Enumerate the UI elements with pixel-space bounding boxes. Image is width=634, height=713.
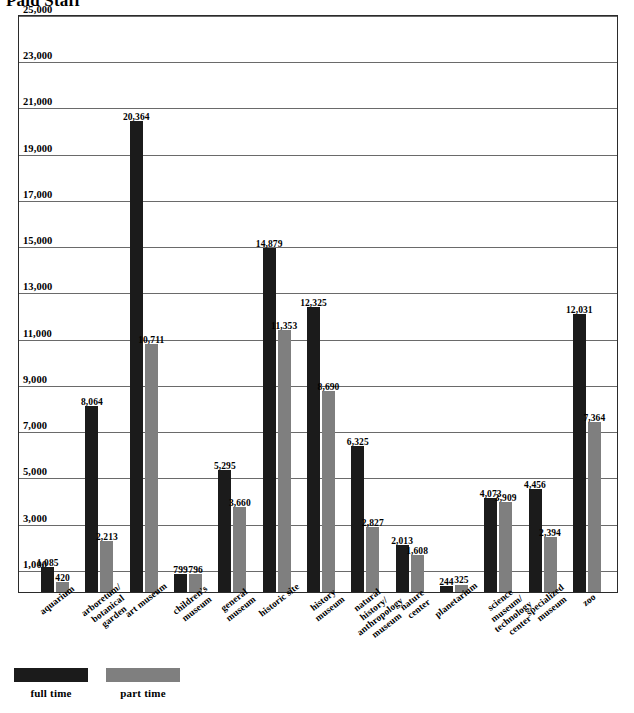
bar-part-time (145, 344, 158, 592)
bar-value-label: 799 (173, 565, 188, 575)
bar-full-time (263, 248, 276, 592)
legend-label: part time (106, 687, 180, 699)
bar-value-label: 244 (439, 577, 454, 587)
bar-full-time (307, 307, 320, 592)
chart-legend: full timepart time (14, 668, 274, 708)
bar-part-time (322, 391, 335, 592)
bars-layer: 1,0854208,0642,21320,36410,7117997965,29… (19, 16, 617, 592)
bar-value-label: 7,364 (583, 413, 605, 423)
bar-value-label: 8,690 (318, 382, 340, 392)
bar-full-time (130, 121, 143, 592)
bar-value-label: 2,213 (96, 532, 118, 542)
bar-full-time (41, 567, 54, 592)
legend-swatch-part (106, 668, 180, 682)
bar-part-time (499, 502, 512, 592)
bar-part-time (278, 330, 291, 592)
legend-item-part[interactable]: part time (106, 668, 180, 699)
bar-value-label: 10,711 (138, 335, 164, 345)
legend-label: full time (14, 687, 88, 699)
bar-value-label: 20,364 (123, 112, 150, 122)
bar-value-label: 3,660 (229, 498, 251, 508)
bar-value-label: 11,353 (271, 321, 297, 331)
bar-value-label: 5,295 (214, 461, 236, 471)
bar-part-time (544, 537, 557, 592)
bar-full-time (85, 406, 98, 592)
bar-value-label: 2,394 (539, 528, 561, 538)
bar-value-label: 796 (188, 565, 203, 575)
bar-full-time (218, 470, 231, 592)
bar-part-time (366, 527, 379, 592)
bar-value-label: 1,608 (406, 546, 428, 556)
bar-value-label: 6,325 (347, 437, 369, 447)
bar-value-label: 12,031 (566, 305, 593, 315)
bar-full-time (529, 489, 542, 592)
x-axis-labels: aquariumarboretum/ botanical gardenart m… (18, 596, 618, 656)
bar-full-time (573, 314, 586, 592)
bar-full-time (174, 574, 187, 592)
plot-area: 1,0003,0005,0007,0009,00011,00013,00015,… (18, 15, 618, 593)
bar-value-label: 1,085 (37, 558, 59, 568)
bar-value-label: 4,456 (524, 480, 546, 490)
bar-value-label: 2,827 (362, 518, 384, 528)
bar-value-label: 420 (55, 573, 70, 583)
y-axis-tick-label: 25,000 (23, 4, 52, 16)
bar-value-label: 12,325 (300, 298, 327, 308)
legend-item-full[interactable]: full time (14, 668, 88, 699)
bar-value-label: 8,064 (81, 397, 103, 407)
chart-page: Paid Staff 1,0003,0005,0007,0009,00011,0… (0, 0, 634, 713)
bar-part-time (233, 507, 246, 592)
legend-swatch-full (14, 668, 88, 682)
bar-full-time (484, 498, 497, 592)
bar-part-time (588, 422, 601, 592)
bar-value-label: 14,879 (256, 239, 283, 249)
bar-value-label: 3,909 (495, 493, 517, 503)
